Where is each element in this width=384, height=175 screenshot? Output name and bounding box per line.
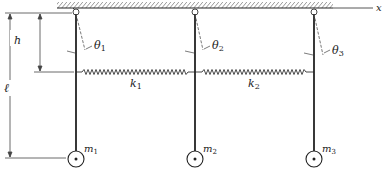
theta-2-label: θ2 [212, 39, 224, 53]
coupled-pendulums-diagram: x h ℓ k1 k2 θ1 m1 [0, 0, 384, 175]
theta-1-label: θ1 [94, 39, 106, 53]
displaced-position-3 [314, 14, 323, 55]
spring-k1-label: k1 [130, 77, 142, 91]
mass-2-label: m2 [203, 143, 217, 156]
l-dimension-label: ℓ [4, 81, 9, 95]
spring-k2-label: k2 [248, 77, 260, 91]
mass-1-label: m1 [84, 143, 98, 156]
spring-k1 [76, 70, 195, 75]
h-dimension-label: h [14, 34, 21, 47]
displaced-position-2 [195, 14, 203, 50]
mass-3-label: m3 [322, 143, 336, 156]
ceiling-support [57, 2, 333, 8]
spring-k2 [195, 70, 314, 75]
displaced-position-1 [76, 14, 85, 50]
x-axis-label: x [376, 2, 382, 13]
theta-3-label: θ3 [332, 44, 344, 58]
